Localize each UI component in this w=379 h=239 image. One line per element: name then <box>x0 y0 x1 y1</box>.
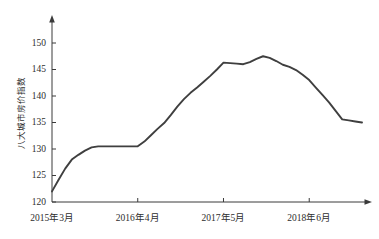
line-chart: 120125130135140145150 2015年3月2016年4月2017… <box>0 0 379 239</box>
y-tick-label: 125 <box>32 170 47 180</box>
x-tick-label: 2016年4月 <box>116 212 160 223</box>
y-tick-label: 120 <box>32 197 47 207</box>
y-tick-label: 140 <box>32 91 47 101</box>
y-axis-title: 八大城市房价指数 <box>16 77 26 149</box>
x-tick-label: 2015年3月 <box>30 212 74 223</box>
y-tick-label: 130 <box>32 144 47 154</box>
y-axis-arrow-icon <box>49 15 55 23</box>
y-tick-label: 145 <box>32 64 47 74</box>
x-axis-arrow-icon <box>365 199 373 204</box>
x-axis <box>52 199 372 204</box>
y-tick-label: 135 <box>32 117 47 127</box>
y-tick-label: 150 <box>32 38 47 48</box>
chart-canvas: 120125130135140145150 2015年3月2016年4月2017… <box>0 0 379 239</box>
x-tick-label: 2018年6月 <box>287 212 331 223</box>
y-axis-title-text: 八大城市房价指数 <box>16 77 26 149</box>
x-tick-label: 2017年5月 <box>202 212 246 223</box>
data-series-line <box>52 56 362 191</box>
